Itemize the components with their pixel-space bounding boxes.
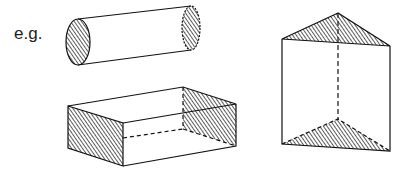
rectangular-prism <box>68 87 236 166</box>
cylinder <box>66 6 200 65</box>
solids-diagram <box>0 0 399 175</box>
triangular-prism <box>282 13 390 151</box>
